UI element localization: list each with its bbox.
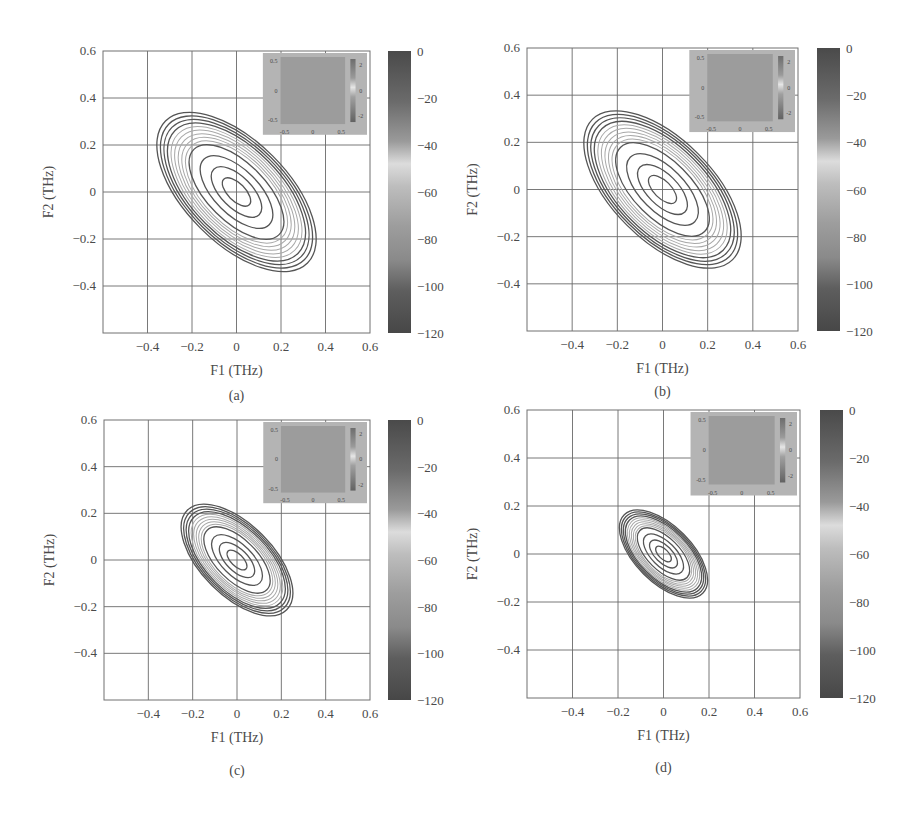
colorbar-tick-label: 0 <box>846 41 853 56</box>
colorbar-tick-label: −80 <box>417 232 437 247</box>
colorbar-tick-label: −40 <box>417 506 437 521</box>
x-tick-label: 0 <box>234 706 241 721</box>
y-axis-label: F2 (THz) <box>465 163 481 216</box>
figure: 0.50-0.5-0.500.520-20.60.40.20−0.2−0.4−0… <box>0 0 921 822</box>
inset-colorbar <box>350 59 355 122</box>
x-tick-label: −0.4 <box>136 339 160 354</box>
panel-b: 0.50-0.5-0.500.520-20.60.40.20−0.2−0.4−0… <box>465 40 873 400</box>
x-tick-label: 0.4 <box>745 337 762 352</box>
x-tick-label: −0.4 <box>561 704 585 719</box>
panel-caption: (a) <box>229 388 245 404</box>
colorbar-tick-label: −120 <box>417 693 444 708</box>
inset-map <box>281 426 345 493</box>
panel-c: 0.50-0.5-0.500.520-20.60.40.20−0.2−0.4−0… <box>42 412 444 779</box>
colorbar-tick-label: −40 <box>846 135 866 150</box>
figure-canvas: 0.50-0.5-0.500.520-20.60.40.20−0.2−0.4−0… <box>0 0 921 822</box>
y-tick-label: 0.6 <box>81 412 98 427</box>
colorbar-gradient <box>388 420 411 700</box>
inset-cbar-tick: 0 <box>359 88 362 94</box>
inset-cbar-tick: -2 <box>358 113 363 119</box>
inset-cbar-tick: 0 <box>789 447 792 453</box>
inset-xtick: 0.5 <box>337 129 345 135</box>
colorbar-tick-label: −120 <box>846 324 873 339</box>
y-tick-label: −0.2 <box>72 231 96 246</box>
inset-cbar-tick: -2 <box>788 473 793 479</box>
inset-xtick: -0.5 <box>280 129 290 135</box>
x-tick-label: 0.4 <box>318 706 335 721</box>
colorbar-tick-label: −100 <box>417 646 444 661</box>
inset-map <box>709 416 775 484</box>
y-tick-label: −0.4 <box>73 645 97 660</box>
inset-ytick: 0.5 <box>698 417 706 423</box>
colorbar-tick-label: 0 <box>417 413 424 428</box>
colorbar-tick-label: −60 <box>417 185 437 200</box>
y-tick-label: 0.2 <box>81 505 97 520</box>
colorbar: 0−20−40−60−80−100−120 <box>388 413 444 708</box>
x-tick-label: −0.2 <box>606 704 630 719</box>
y-tick-label: 0.6 <box>80 43 97 58</box>
colorbar-tick-label: −120 <box>417 326 444 341</box>
colorbar-tick-label: −80 <box>846 230 866 245</box>
y-axis-label: F2 (THz) <box>42 533 58 586</box>
y-tick-label: 0.4 <box>80 90 97 105</box>
inset-cbar-tick: 2 <box>787 59 790 65</box>
y-tick-label: −0.2 <box>496 229 520 244</box>
inset-cbar-tick: 2 <box>359 431 362 437</box>
colorbar-tick-label: −60 <box>417 553 437 568</box>
panel-caption: (c) <box>229 763 245 779</box>
y-tick-label: −0.4 <box>496 276 520 291</box>
inset-map <box>707 54 773 121</box>
x-axis-label: F1 (THz) <box>210 363 263 379</box>
y-tick-label: 0.2 <box>504 498 520 513</box>
colorbar-tick-label: −60 <box>846 183 866 198</box>
inset-ytick: -0.5 <box>696 477 706 483</box>
x-tick-label: 0.2 <box>700 337 716 352</box>
x-tick-label: 0.2 <box>273 706 289 721</box>
inset-xtick: -0.5 <box>280 497 290 503</box>
inset-ytick: 0 <box>275 88 278 94</box>
inset-colorbar <box>778 56 783 119</box>
y-tick-label: 0 <box>90 184 97 199</box>
inset-ytick: 0.5 <box>697 55 705 61</box>
x-tick-label: 0.6 <box>362 706 379 721</box>
colorbar-gradient <box>820 410 843 698</box>
y-tick-label: 0.2 <box>504 134 520 149</box>
inset-ytick: 0 <box>703 447 706 453</box>
colorbar-tick-label: −100 <box>846 277 873 292</box>
x-tick-label: −0.4 <box>560 337 584 352</box>
inset-ytick: 0.5 <box>270 58 278 64</box>
colorbar-tick-label: −40 <box>849 499 869 514</box>
colorbar-tick-label: −80 <box>849 595 869 610</box>
x-tick-label: 0.6 <box>792 704 809 719</box>
inset-xtick: -0.5 <box>707 126 717 132</box>
x-tick-label: 0.6 <box>362 339 379 354</box>
x-tick-label: 0 <box>233 339 240 354</box>
inset-map <box>281 57 346 124</box>
colorbar-tick-label: −20 <box>849 451 869 466</box>
inset-plot: 0.50-0.5-0.500.520-2 <box>689 50 795 132</box>
colorbar-tick-label: −20 <box>417 460 437 475</box>
colorbar: 0−20−40−60−80−100−120 <box>817 41 873 339</box>
colorbar-tick-label: −100 <box>849 643 876 658</box>
y-tick-label: −0.4 <box>496 642 520 657</box>
x-tick-label: −0.4 <box>137 706 161 721</box>
inset-xtick: -0.5 <box>708 490 718 496</box>
colorbar-tick-label: −100 <box>417 279 444 294</box>
colorbar-tick-label: 0 <box>849 403 856 418</box>
inset-xtick: 0 <box>739 126 742 132</box>
x-tick-label: −0.2 <box>181 706 205 721</box>
inset-ytick: 0 <box>275 456 278 462</box>
inset-ytick: -0.5 <box>268 486 278 492</box>
x-axis-label: F1 (THz) <box>636 361 689 377</box>
inset-ytick: 0.5 <box>270 427 278 433</box>
colorbar-tick-label: 0 <box>417 44 424 59</box>
y-tick-label: 0 <box>514 546 521 561</box>
colorbar-tick-label: −80 <box>417 600 437 615</box>
y-tick-label: 0 <box>514 182 521 197</box>
x-tick-label: −0.2 <box>606 337 630 352</box>
inset-xtick: 0 <box>312 497 315 503</box>
x-tick-label: 0 <box>659 337 666 352</box>
inset-xtick: 0.5 <box>767 490 775 496</box>
panel-a: 0.50-0.5-0.500.520-20.60.40.20−0.2−0.4−0… <box>41 43 444 404</box>
colorbar-tick-label: −120 <box>849 691 876 706</box>
